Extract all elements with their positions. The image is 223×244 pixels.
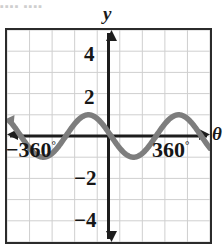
- degree-symbol-left: °: [52, 139, 56, 151]
- theta-axis-label: θ: [212, 124, 222, 143]
- y-tick-neg-2: −2: [74, 166, 96, 191]
- x-tick-neg-360: −360°: [6, 137, 56, 163]
- x-tick-360-value: 360: [152, 137, 185, 162]
- y-tick-2: 2: [84, 85, 95, 110]
- y-axis-label: y: [103, 4, 111, 23]
- y-tick-4: 4: [84, 42, 95, 67]
- x-tick-360: 360°: [152, 137, 189, 163]
- plot-frame: [5, 28, 212, 244]
- y-tick-neg-4: −4: [74, 208, 96, 233]
- degree-symbol-right: °: [185, 139, 189, 151]
- x-tick-neg-360-value: −360: [6, 137, 52, 162]
- plot-canvas: [7, 30, 210, 242]
